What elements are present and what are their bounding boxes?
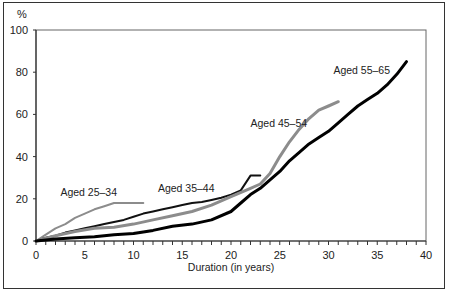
y-tick-label: 100 bbox=[10, 24, 28, 36]
line-chart: 0510152025303540020406080100 Aged 25–34A… bbox=[0, 0, 452, 294]
y-tick-label: 20 bbox=[16, 193, 28, 205]
series-label-3: Aged 55–65 bbox=[333, 64, 390, 76]
x-tick-label: 0 bbox=[33, 249, 39, 261]
x-tick-label: 25 bbox=[274, 249, 286, 261]
x-tick-label: 10 bbox=[127, 249, 139, 261]
series-lines bbox=[36, 62, 407, 241]
x-tick-label: 5 bbox=[82, 249, 88, 261]
y-tick-label: 60 bbox=[16, 108, 28, 120]
y-tick-label: 80 bbox=[16, 66, 28, 78]
axes: 0510152025303540020406080100 bbox=[10, 24, 432, 261]
y-axis-unit: % bbox=[17, 8, 27, 20]
series-label-1: Aged 35–44 bbox=[158, 182, 215, 194]
x-tick-label: 35 bbox=[371, 249, 383, 261]
y-tick-label: 40 bbox=[16, 151, 28, 163]
series-labels: Aged 25–34Aged 35–44Aged 45–54Aged 55–65 bbox=[60, 64, 390, 197]
x-tick-label: 15 bbox=[176, 249, 188, 261]
x-tick-label: 40 bbox=[420, 249, 432, 261]
x-tick-label: 20 bbox=[225, 249, 237, 261]
series-label-0: Aged 25–34 bbox=[60, 186, 117, 198]
y-tick-label: 0 bbox=[22, 235, 28, 247]
x-axis-title: Duration (in years) bbox=[188, 261, 274, 273]
x-tick-label: 30 bbox=[322, 249, 334, 261]
series-label-2: Aged 45–54 bbox=[251, 117, 308, 129]
series-line-3 bbox=[36, 62, 407, 241]
